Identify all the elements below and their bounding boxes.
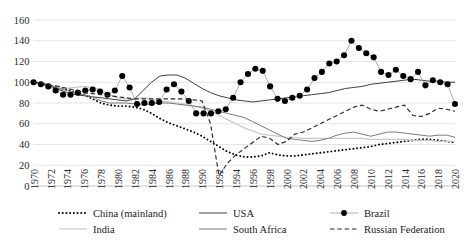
data-point-marker [319, 69, 325, 75]
y-tick-label: 140 [14, 35, 30, 46]
x-tick-label: 2002 [298, 169, 309, 189]
data-point-marker [201, 110, 207, 116]
x-tick-label: 1986 [164, 169, 175, 189]
series-south-africa [34, 82, 456, 141]
data-point-marker [245, 71, 251, 77]
data-point-marker [178, 89, 184, 95]
x-tick-label: 2012 [383, 169, 394, 189]
x-tick-label: 1990 [197, 169, 208, 189]
data-point-marker [134, 101, 140, 107]
x-tick-label: 2014 [400, 169, 411, 189]
data-point-marker [97, 89, 103, 95]
x-tick-label: 2008 [349, 169, 360, 189]
data-point-marker [334, 58, 340, 64]
data-point-marker [215, 108, 221, 114]
data-point-marker [193, 110, 199, 116]
data-point-marker [430, 77, 436, 83]
data-point-marker [393, 67, 399, 73]
data-point-marker [156, 99, 162, 105]
data-point-marker [297, 93, 303, 99]
data-point-marker [341, 52, 347, 58]
data-point-marker [311, 75, 317, 81]
y-tick-label: 40 [19, 139, 30, 150]
legend-group: China (mainland)USABrazilIndiaSouth Afri… [59, 208, 446, 235]
x-tick-label: 2006 [332, 169, 343, 189]
data-point-marker [408, 76, 414, 82]
data-point-marker [38, 81, 44, 87]
data-point-marker [223, 106, 229, 112]
data-point-marker [304, 86, 310, 92]
data-point-marker [127, 84, 133, 90]
data-point-marker [452, 101, 458, 107]
data-point-marker [141, 100, 147, 106]
data-point-marker [171, 81, 177, 87]
x-tick-label: 1988 [180, 169, 191, 189]
line-chart: 020406080100120140160 197019721974197619… [0, 0, 468, 243]
data-point-marker [149, 100, 155, 106]
x-tick-label: 2016 [416, 169, 427, 189]
legend-marker-sample [341, 210, 347, 216]
x-tick-label: 1996 [248, 169, 259, 189]
legend-item-label: USA [233, 208, 254, 219]
x-tick-label: 2018 [433, 169, 444, 189]
x-tick-label: 1972 [46, 169, 57, 189]
data-point-marker [274, 96, 280, 102]
legend-item-brazil[interactable]: Brazil [330, 208, 390, 219]
x-tick-label: 2000 [282, 169, 293, 189]
data-point-marker [289, 95, 295, 101]
legend-item-label: Brazil [364, 208, 390, 219]
series-brazil [30, 38, 458, 117]
y-tick-label: 160 [14, 15, 30, 26]
y-tick-label: 120 [14, 56, 30, 67]
gridlines-group [34, 20, 456, 186]
data-point-marker [67, 92, 73, 98]
data-point-marker [437, 79, 443, 85]
x-tick-label: 1982 [130, 169, 141, 189]
legend-item-label: South Africa [233, 224, 287, 235]
series-group [30, 38, 458, 176]
series-china-mainland [34, 82, 456, 157]
series-line [34, 82, 456, 157]
x-tick-label: 1974 [62, 169, 73, 189]
data-point-marker [445, 81, 451, 87]
legend-item-india[interactable]: India [59, 224, 115, 235]
x-tick-label: 1992 [214, 169, 225, 189]
data-point-marker [90, 86, 96, 92]
data-point-marker [385, 72, 391, 78]
data-point-marker [326, 61, 332, 67]
x-tick-label: 1978 [96, 169, 107, 189]
series-line [34, 82, 456, 141]
data-point-marker [238, 79, 244, 85]
data-point-marker [282, 98, 288, 104]
data-point-marker [260, 68, 266, 74]
series-line [34, 41, 456, 114]
x-tick-label: 2010 [366, 169, 377, 189]
legend-item-south-africa[interactable]: South Africa [199, 224, 287, 235]
y-tick-label: 100 [14, 77, 30, 88]
data-point-marker [112, 88, 118, 94]
data-point-marker [252, 66, 258, 72]
data-point-marker [53, 88, 59, 94]
data-point-marker [267, 83, 273, 89]
legend-item-usa[interactable]: USA [199, 208, 254, 219]
data-point-marker [400, 73, 406, 79]
series-line [34, 82, 456, 175]
legend-item-label: Russian Federation [364, 224, 446, 235]
legend-item-russian-federation[interactable]: Russian Federation [330, 224, 446, 235]
data-point-marker [356, 45, 362, 51]
chart-canvas: 020406080100120140160 197019721974197619… [0, 0, 468, 243]
x-tick-label: 2020 [450, 169, 461, 189]
x-tick-label: 1970 [29, 169, 40, 189]
x-tick-label: 1976 [79, 169, 90, 189]
data-point-marker [230, 95, 236, 101]
data-point-marker [378, 69, 384, 75]
data-point-marker [371, 54, 377, 60]
data-point-marker [75, 90, 81, 96]
data-point-marker [119, 73, 125, 79]
x-tick-label: 2004 [315, 169, 326, 189]
x-tick-label: 1984 [147, 169, 158, 189]
data-point-marker [415, 69, 421, 75]
legend-item-china-mainland[interactable]: China (mainland) [59, 208, 167, 220]
y-tick-label: 60 [19, 118, 30, 129]
x-tick-label: 1994 [231, 169, 242, 189]
